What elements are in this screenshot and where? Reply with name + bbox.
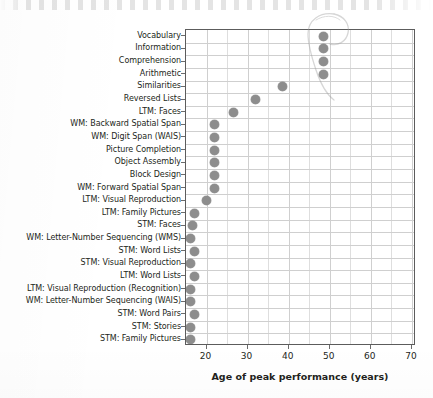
gridline-vertical xyxy=(207,30,208,344)
y-axis-label: Reversed Lists xyxy=(0,94,181,103)
x-axis-tick-label: 60 xyxy=(355,351,385,362)
y-axis-label: WM: Letter-Number Sequencing (WAIS) xyxy=(0,296,181,305)
y-axis-label: STM: Word Pairs xyxy=(0,309,181,318)
gridline-vertical-minor xyxy=(309,30,310,344)
data-point-marker xyxy=(190,247,199,256)
gridline-horizontal xyxy=(186,169,414,170)
data-point-marker xyxy=(229,108,238,117)
x-axis-tick xyxy=(288,345,289,349)
y-axis-label: STM: Faces xyxy=(0,220,181,229)
data-point-marker xyxy=(188,221,197,230)
x-axis-tick-label: 50 xyxy=(314,351,344,362)
gridline-vertical xyxy=(248,30,249,344)
y-axis-label: LTM: Word Lists xyxy=(0,271,181,280)
data-point-marker xyxy=(251,95,260,104)
gridline-vertical xyxy=(330,30,331,344)
y-axis-label: STM: Visual Reproduction xyxy=(0,258,181,267)
data-point-marker xyxy=(190,209,199,218)
y-axis-label: Comprehension xyxy=(0,56,181,65)
x-axis-tick xyxy=(329,345,330,349)
gridline-horizontal xyxy=(186,131,414,132)
gridline-horizontal xyxy=(186,207,414,208)
y-axis-label: LTM: Visual Reproduction xyxy=(0,195,181,204)
gridline-horizontal xyxy=(186,245,414,246)
gridline-horizontal xyxy=(186,295,414,296)
gridline-vertical-minor xyxy=(350,30,351,344)
gridline-vertical xyxy=(371,30,372,344)
gridline-vertical xyxy=(289,30,290,344)
y-axis-label: LTM: Visual Reproduction (Recognition) xyxy=(0,284,181,293)
y-axis-label: Arithmetic xyxy=(0,69,181,78)
data-point-marker xyxy=(210,146,219,155)
y-axis-label: STM: Family Pictures xyxy=(0,334,181,343)
data-point-marker xyxy=(278,82,287,91)
x-axis-tick xyxy=(370,345,371,349)
x-axis-title: Age of peak performance (years) xyxy=(185,371,415,382)
gridline-horizontal xyxy=(186,81,414,82)
x-axis-tick-label: 40 xyxy=(273,351,303,362)
gridline-horizontal xyxy=(186,55,414,56)
gridline-vertical-minor xyxy=(268,30,269,344)
gridline-horizontal xyxy=(186,93,414,94)
y-axis-label: WM: Backward Spatial Span xyxy=(0,119,181,128)
x-axis-tick xyxy=(247,345,248,349)
data-point-marker xyxy=(319,57,328,66)
gridline-vertical-minor xyxy=(227,30,228,344)
gridline-horizontal xyxy=(186,270,414,271)
y-axis-category-labels: VocabularyInformationComprehensionArithm… xyxy=(0,29,181,345)
y-axis-label: Block Design xyxy=(0,170,181,179)
data-point-marker xyxy=(186,297,195,306)
x-axis-tick-label: 70 xyxy=(396,351,426,362)
gridline-vertical-minor xyxy=(391,30,392,344)
data-point-marker xyxy=(186,259,195,268)
x-axis-tick xyxy=(206,345,207,349)
y-axis-label: WM: Letter-Number Sequencing (WMS) xyxy=(0,233,181,242)
data-point-marker xyxy=(319,32,328,41)
y-axis-label: WM: Digit Span (WAIS) xyxy=(0,132,181,141)
scan-bleed-through xyxy=(0,0,433,10)
data-point-marker xyxy=(319,70,328,79)
gridline-horizontal xyxy=(186,258,414,259)
data-point-marker xyxy=(190,272,199,281)
data-point-marker xyxy=(202,196,211,205)
data-point-marker xyxy=(186,335,195,344)
data-point-marker xyxy=(319,44,328,53)
gridline-horizontal xyxy=(186,182,414,183)
y-axis-label: STM: Stories xyxy=(0,322,181,331)
gridline-horizontal xyxy=(186,106,414,107)
data-point-marker xyxy=(210,171,219,180)
gridline-horizontal xyxy=(186,156,414,157)
y-axis-label: Picture Completion xyxy=(0,145,181,154)
gridline-horizontal xyxy=(186,194,414,195)
gridline-horizontal xyxy=(186,232,414,233)
data-point-marker xyxy=(190,310,199,319)
gridline-horizontal xyxy=(186,308,414,309)
y-axis-label: STM: Word Lists xyxy=(0,246,181,255)
data-point-marker xyxy=(210,120,219,129)
gridline-horizontal xyxy=(186,118,414,119)
data-point-marker xyxy=(210,133,219,142)
gridline-horizontal xyxy=(186,43,414,44)
gridline-horizontal xyxy=(186,68,414,69)
scatter-chart-figure: VocabularyInformationComprehensionArithm… xyxy=(0,0,433,398)
data-point-marker xyxy=(186,234,195,243)
y-axis-label: LTM: Faces xyxy=(0,107,181,116)
gridline-horizontal xyxy=(186,220,414,221)
x-axis-tick-label: 30 xyxy=(232,351,262,362)
gridline-horizontal xyxy=(186,144,414,145)
y-axis-label: Object Assembly xyxy=(0,157,181,166)
gridline-horizontal xyxy=(186,283,414,284)
plot-area xyxy=(185,29,415,345)
x-axis-tick xyxy=(411,345,412,349)
x-axis-tick-label: 20 xyxy=(191,351,221,362)
gridline-vertical xyxy=(412,30,413,344)
data-point-marker xyxy=(210,158,219,167)
y-axis-label: WM: Forward Spatial Span xyxy=(0,183,181,192)
y-axis-label: LTM: Family Pictures xyxy=(0,208,181,217)
data-point-marker xyxy=(186,323,195,332)
y-axis-label: Vocabulary xyxy=(0,31,181,40)
data-point-marker xyxy=(210,184,219,193)
data-point-marker xyxy=(186,285,195,294)
y-axis-label: Information xyxy=(0,43,181,52)
gridline-horizontal xyxy=(186,333,414,334)
